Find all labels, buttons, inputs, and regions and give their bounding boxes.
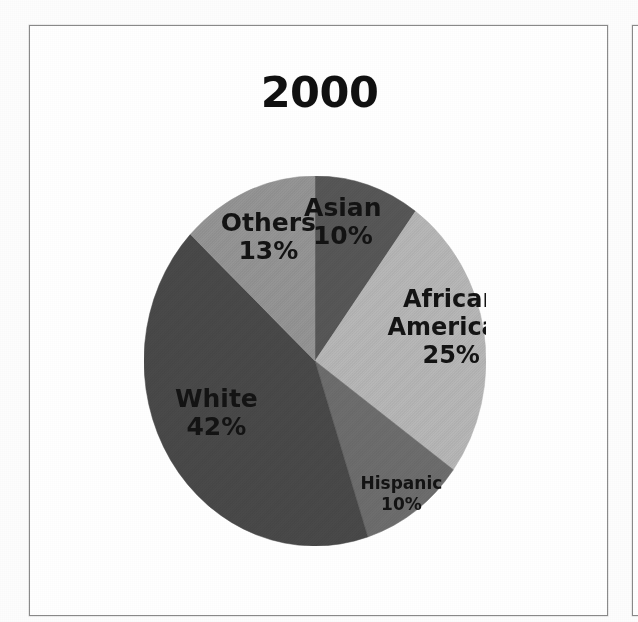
pie-chart-svg: Asian10%AfricanAmerican25%Hispanic10%Whi… [144, 176, 486, 546]
adjacent-panel-edge [632, 25, 638, 616]
pie-label-name: African [403, 285, 486, 313]
pie-label-name: Hispanic [360, 473, 442, 493]
pie-label-value: 13% [238, 236, 298, 265]
document-page: 2000 Asian10%AfricanAmerican25%Hispanic1… [0, 0, 638, 622]
pie-label-value: 10% [313, 221, 373, 250]
pie-label-name: White [175, 384, 258, 413]
pie-label-name: Others [221, 208, 316, 237]
chart-panel: 2000 Asian10%AfricanAmerican25%Hispanic1… [29, 25, 608, 616]
pie-chart: Asian10%AfricanAmerican25%Hispanic10%Whi… [144, 176, 486, 546]
pie-label-name: American [387, 313, 486, 341]
pie-label-white: White42% [175, 384, 258, 441]
page-title: 2000 [30, 67, 609, 117]
pie-label-value: 10% [381, 494, 422, 514]
pie-label-value: 42% [186, 412, 246, 441]
pie-label-value: 25% [422, 341, 479, 369]
